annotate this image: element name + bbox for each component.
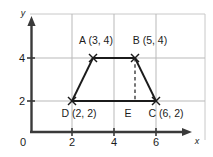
- y-axis-label: y: [20, 8, 26, 18]
- origin-label: 0: [20, 136, 26, 148]
- x-tick-label-6: 6: [153, 136, 159, 148]
- x-axis-arrow: [182, 128, 192, 136]
- y-tick-label-4: 4: [19, 52, 25, 64]
- coordinate-diagram: y x 0 4 2 2 4 6 A (3, 4) B (5, 4) D (2, …: [0, 0, 213, 157]
- y-axis-arrow: [27, 16, 35, 26]
- plot-frame: [30, 14, 205, 140]
- y-tick-label-2: 2: [19, 95, 25, 107]
- edge-B-C: [135, 58, 156, 101]
- x-axis-label: x: [194, 136, 200, 146]
- point-label-C: C (6, 2): [148, 107, 183, 119]
- edge-D-A: [72, 58, 93, 101]
- point-label-D: D (2, 2): [61, 107, 96, 119]
- point-label-B: B (5, 4): [133, 34, 167, 46]
- point-label-A: A (3, 4): [79, 34, 113, 46]
- x-tick-label-2: 2: [69, 136, 75, 148]
- coordinate-plane-svg: y x 0 4 2 2 4 6 A (3, 4) B (5, 4) D (2, …: [0, 0, 213, 157]
- point-label-E: E: [124, 107, 131, 119]
- x-tick-label-4: 4: [111, 136, 117, 148]
